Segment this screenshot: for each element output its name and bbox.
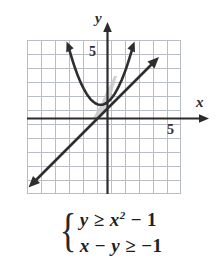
graph-area: y x 5 5	[0, 0, 219, 200]
inequality-2-operator: ≥	[125, 235, 136, 256]
x-axis-tick-label-5: 5	[167, 123, 174, 137]
inequality-row-2: x − y ≥ −1	[80, 233, 163, 259]
inequality-1-lhs: y	[80, 209, 89, 230]
inequality-2-minus: −	[95, 235, 106, 256]
graph-figure: y x 5 5 { y ≥ x2 − 1 x − y ≥ −1	[0, 0, 219, 267]
system-of-inequalities: { y ≥ x2 − 1 x − y ≥ −1	[0, 203, 219, 267]
grid-lines	[27, 40, 181, 194]
y-axis-label: y	[95, 11, 102, 26]
inequality-2-lhs-x: x	[80, 235, 90, 256]
x-axis-label: x	[196, 95, 204, 110]
inequality-2-lhs-y: y	[111, 235, 120, 256]
inequality-2-tail: −1	[141, 235, 162, 256]
coordinate-graph	[0, 0, 219, 200]
inequality-1-base: x	[110, 209, 120, 230]
y-axis-tick-label-5: 5	[89, 45, 96, 59]
inequality-row-1: y ≥ x2 − 1	[80, 207, 163, 233]
inequality-1-exponent: 2	[120, 208, 126, 220]
inequality-1-operator: ≥	[94, 209, 105, 230]
inequality-list: y ≥ x2 − 1 x − y ≥ −1	[80, 203, 163, 259]
inequality-1-tail: − 1	[131, 209, 157, 230]
system-brace: {	[59, 203, 76, 259]
